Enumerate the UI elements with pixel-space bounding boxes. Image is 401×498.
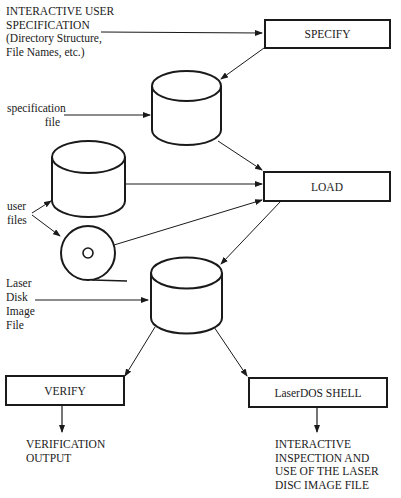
label-line: SPECIFICATION [6, 19, 114, 33]
diagram-canvas [0, 0, 401, 498]
laserdos-shell-box: LaserDOS SHELL [248, 377, 388, 408]
arrow-load-to-imagefile [221, 201, 281, 264]
user-files-tape-reel-icon [61, 226, 127, 281]
label-line: Laser [6, 276, 35, 290]
label-line: VERIFICATION [26, 438, 105, 452]
shell-output-label: INTERACTIVE INSPECTION AND USE OF THE LA… [275, 438, 379, 492]
label-line: Disk [6, 290, 35, 304]
specify-box: SPECIFY [264, 19, 391, 49]
label-line: File [6, 318, 35, 332]
arrow-spec-to-specify [101, 32, 262, 33]
label-line: OUTPUT [26, 452, 105, 466]
arrow-userfiles-to-tape [32, 215, 60, 236]
label-line: INTERACTIVE USER [6, 5, 114, 19]
arrow-specfile-to-load [218, 141, 262, 170]
label-line: user [7, 200, 27, 214]
shell-label: LaserDOS SHELL [274, 387, 361, 399]
verification-output-label: VERIFICATION OUTPUT [26, 438, 105, 465]
arrow-imagefile-to-verify [125, 327, 155, 376]
laser-disk-image-file-cylinder-icon [151, 258, 222, 334]
verify-box: VERIFY [5, 375, 125, 406]
label-line: Image [6, 304, 35, 318]
label-line: specification [7, 102, 60, 116]
label-line: file [7, 116, 60, 130]
label-line: INSPECTION AND [275, 452, 379, 466]
interactive-spec-label: INTERACTIVE USER SPECIFICATION (Director… [6, 5, 114, 59]
specification-file-label: specification file [7, 102, 60, 129]
user-files-label: user files [7, 200, 27, 227]
arrow-userfiles-to-disk [32, 201, 51, 213]
load-box: LOAD [263, 171, 391, 202]
label-line: File Names, etc.) [6, 46, 114, 60]
laser-disk-image-file-label: Laser Disk Image File [6, 276, 35, 332]
arrow-usertape-to-load [114, 200, 262, 245]
verify-label: VERIFY [44, 385, 86, 397]
label-line: DISC IMAGE FILE [275, 479, 379, 493]
label-line: INTERACTIVE [275, 438, 379, 452]
label-line: files [7, 214, 27, 228]
load-label: LOAD [311, 181, 343, 193]
specify-label: SPECIFY [304, 28, 350, 40]
arrow-specify-to-specfile [221, 48, 264, 79]
arrow-imagefile-to-shell [214, 327, 247, 376]
label-line: (Directory Structure, [6, 32, 114, 46]
user-files-disk-cylinder-icon [52, 141, 125, 217]
label-line: USE OF THE LASER [275, 465, 379, 479]
specification-file-cylinder-icon [152, 71, 221, 145]
